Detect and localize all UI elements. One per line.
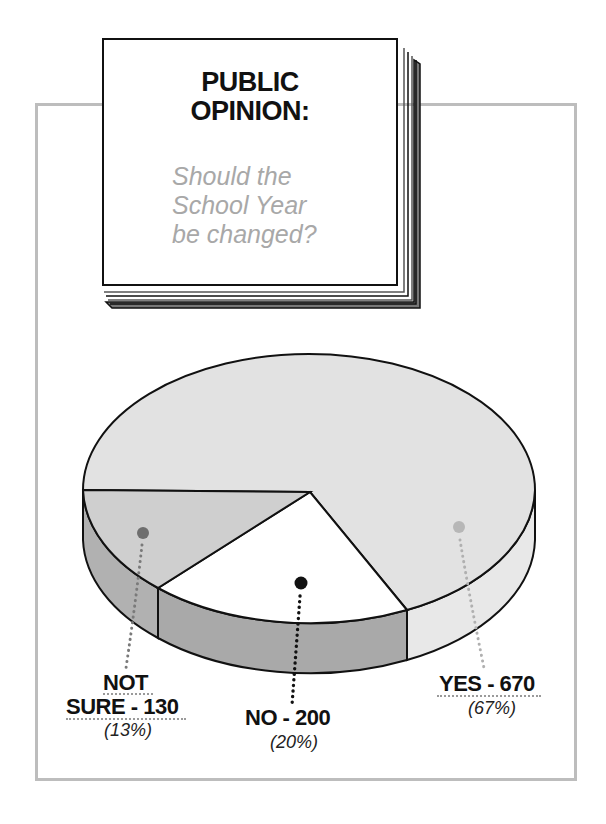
label-not-sure-pct: (13%)	[104, 720, 152, 741]
title-line-1: PUBLIC	[104, 68, 396, 97]
title-card: PUBLIC OPINION: Should the School Year b…	[102, 38, 422, 312]
question-line-2: School Year	[172, 191, 317, 220]
title-line-2: OPINION:	[104, 97, 396, 126]
label-yes-pct: (67%)	[468, 698, 516, 719]
title-card-face: PUBLIC OPINION: Should the School Year b…	[102, 38, 398, 286]
question-line-3: be changed?	[172, 220, 317, 249]
card-question: Should the School Year be changed?	[172, 162, 317, 249]
card-title: PUBLIC OPINION:	[104, 68, 396, 126]
label-not-sure-line2: SURE - 130	[66, 694, 178, 720]
label-no-pct: (20%)	[270, 732, 318, 753]
underline-yes	[437, 695, 541, 697]
label-no: NO - 200	[245, 705, 330, 731]
label-yes: YES - 670	[439, 671, 535, 697]
question-line-1: Should the	[172, 162, 317, 191]
